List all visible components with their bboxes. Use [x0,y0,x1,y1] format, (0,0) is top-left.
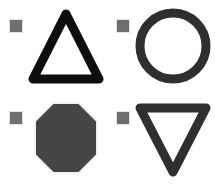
circle-outline-icon[interactable] [133,2,213,90]
triangle-up-outline-icon[interactable] [26,2,106,90]
octagon-filled-icon[interactable] [26,94,106,182]
shape-cell-octagon[interactable] [0,92,107,184]
shape-cell-triangle-down[interactable] [107,92,214,184]
triangle-down-outline-icon[interactable] [133,94,213,182]
selection-handle[interactable] [117,112,129,124]
shape-grid [0,0,215,184]
selection-handle[interactable] [10,112,22,124]
selection-handle[interactable] [10,20,22,32]
shape-cell-circle[interactable] [107,0,214,92]
shape-cell-triangle-up[interactable] [0,0,107,92]
selection-handle[interactable] [117,20,129,32]
